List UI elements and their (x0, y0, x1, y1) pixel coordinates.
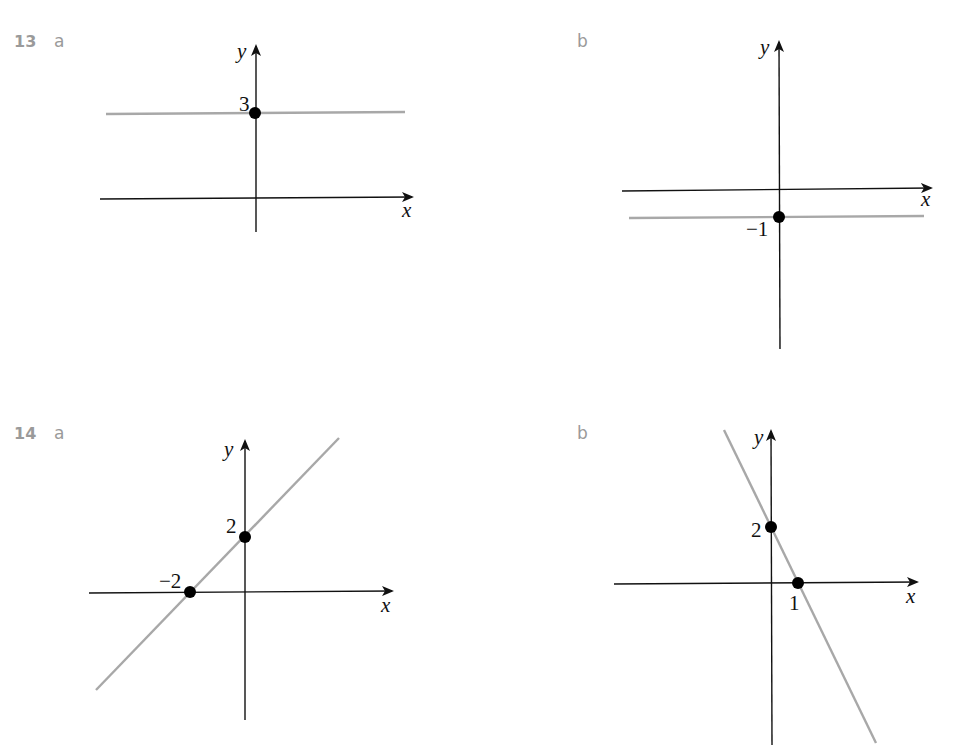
x-axis (89, 591, 392, 593)
point-y-intercept-3 (249, 107, 261, 119)
y-axis-label: y (235, 39, 247, 63)
line-y-equals-x-plus-2 (96, 438, 339, 690)
x-axis (614, 582, 917, 584)
point-x-intercept-1 (792, 577, 804, 589)
point-label-2: 2 (226, 514, 237, 538)
point-y-intercept-neg1 (773, 211, 785, 223)
point-label-neg1: −1 (746, 217, 768, 241)
point-y-intercept-2 (765, 521, 777, 533)
graph-13b: y x −1 (622, 35, 931, 349)
y-axis-label: y (758, 35, 770, 59)
point-label-neg2: −2 (159, 569, 181, 593)
graph-13a: y x 3 (100, 39, 412, 232)
point-label-1: 1 (789, 591, 800, 615)
y-axis-label: y (752, 425, 764, 449)
point-x-intercept-neg2 (184, 586, 196, 598)
x-axis-label: x (380, 593, 391, 617)
point-y-intercept-2 (239, 531, 251, 543)
graph-14b: y x 2 1 (614, 425, 917, 745)
y-axis (771, 431, 772, 745)
y-axis-label: y (222, 437, 234, 461)
x-axis-label: x (920, 187, 931, 211)
point-label-3: 3 (239, 92, 250, 116)
x-axis-label: x (905, 584, 916, 608)
graph-14a: y x 2 −2 (89, 437, 392, 720)
graphs-canvas: y x 3 y x −1 y x 2 −2 y x 2 1 (0, 0, 955, 745)
y-axis (779, 42, 780, 349)
x-axis-label: x (401, 198, 412, 222)
point-label-2: 2 (751, 518, 762, 542)
x-axis (622, 188, 931, 191)
